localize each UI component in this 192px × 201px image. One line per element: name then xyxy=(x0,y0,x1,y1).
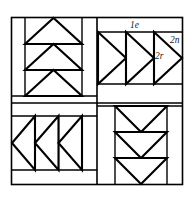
label-2n: 2n xyxy=(170,36,180,46)
label-2r: 2r xyxy=(155,52,163,62)
quilt-block-diagram xyxy=(0,0,192,201)
figure-container: 1e 2n 2r xyxy=(0,0,192,201)
label-1e: 1e xyxy=(130,21,139,31)
